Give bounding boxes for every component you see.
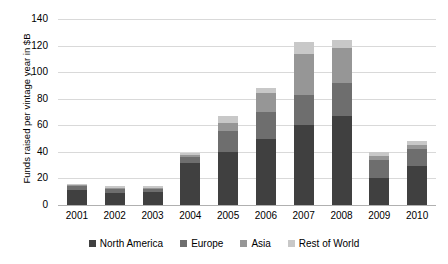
bar-segment xyxy=(218,152,238,205)
legend-item[interactable]: Rest of World xyxy=(288,238,359,249)
x-tick-label: 2007 xyxy=(285,210,323,221)
bar-group[interactable] xyxy=(67,184,87,205)
bar-group[interactable] xyxy=(332,40,352,205)
bar-segment xyxy=(256,93,276,112)
chart-legend: North AmericaEuropeAsiaRest of World xyxy=(0,238,448,249)
bar-segment xyxy=(407,166,427,205)
bar-segment xyxy=(256,112,276,139)
bar-segment xyxy=(369,178,389,205)
bar-segment xyxy=(67,190,87,205)
gridline xyxy=(58,46,436,47)
bar-group[interactable] xyxy=(143,186,163,205)
bar-segment xyxy=(218,131,238,152)
bar-segment xyxy=(294,125,314,205)
legend-swatch-icon xyxy=(288,240,295,247)
bar-segment xyxy=(369,160,389,179)
legend-label: North America xyxy=(100,238,163,249)
legend-item[interactable]: Europe xyxy=(180,238,223,249)
x-tick-label: 2008 xyxy=(323,210,361,221)
x-tick-label: 2006 xyxy=(247,210,285,221)
bar-group[interactable] xyxy=(180,153,200,205)
plot-area xyxy=(58,19,436,205)
x-tick-label: 2010 xyxy=(398,210,436,221)
x-tick-label: 2002 xyxy=(96,210,134,221)
y-tick-label: 80 xyxy=(18,94,48,104)
bar-group[interactable] xyxy=(407,141,427,205)
bar-segment xyxy=(294,95,314,126)
legend-swatch-icon xyxy=(89,240,96,247)
bar-segment xyxy=(294,54,314,95)
y-tick-label: 120 xyxy=(18,41,48,51)
bar-segment xyxy=(332,116,352,205)
legend-swatch-icon xyxy=(240,240,247,247)
stacked-bar-chart: Funds raised per vintage year in $B 0204… xyxy=(0,0,448,264)
gridline xyxy=(58,125,436,126)
gridline xyxy=(58,19,436,20)
bar-group[interactable] xyxy=(369,152,389,205)
x-axis-line xyxy=(58,205,436,206)
x-tick-label: 2009 xyxy=(360,210,398,221)
bar-segment xyxy=(218,116,238,123)
x-tick-label: 2003 xyxy=(134,210,172,221)
y-tick-label: 140 xyxy=(18,14,48,24)
bar-segment xyxy=(332,48,352,83)
y-tick-label: 60 xyxy=(18,120,48,130)
legend-swatch-icon xyxy=(180,240,187,247)
legend-label: Europe xyxy=(191,238,223,249)
bar-group[interactable] xyxy=(256,88,276,205)
legend-label: Asia xyxy=(251,238,270,249)
bar-group[interactable] xyxy=(105,186,125,205)
bar-segment xyxy=(105,193,125,205)
x-tick-label: 2005 xyxy=(209,210,247,221)
x-tick-label: 2004 xyxy=(171,210,209,221)
y-tick-label: 40 xyxy=(18,147,48,157)
bar-segment xyxy=(332,40,352,48)
bar-segment xyxy=(332,83,352,116)
bar-segment xyxy=(294,42,314,54)
bar-segment xyxy=(407,149,427,166)
bar-segment xyxy=(143,192,163,205)
legend-label: Rest of World xyxy=(299,238,359,249)
gridline xyxy=(58,99,436,100)
bar-segment xyxy=(256,139,276,205)
bar-segment xyxy=(180,163,200,206)
y-tick-label: 20 xyxy=(18,173,48,183)
y-tick-label: 100 xyxy=(18,67,48,77)
y-tick-label: 0 xyxy=(18,200,48,210)
legend-item[interactable]: North America xyxy=(89,238,163,249)
x-tick-label: 2001 xyxy=(58,210,96,221)
bar-group[interactable] xyxy=(218,116,238,205)
legend-item[interactable]: Asia xyxy=(240,238,270,249)
gridline xyxy=(58,72,436,73)
bar-group[interactable] xyxy=(294,42,314,205)
bar-segment xyxy=(218,123,238,131)
